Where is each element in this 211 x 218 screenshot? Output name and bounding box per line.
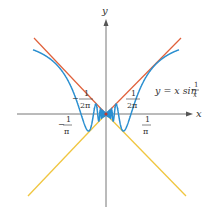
curve-label: y = x sin 1 x xyxy=(154,81,199,99)
y-axis-arrow-icon xyxy=(104,19,109,26)
svg-text:2π: 2π xyxy=(127,101,137,110)
svg-text:2π: 2π xyxy=(80,101,90,110)
svg-text:π: π xyxy=(143,127,148,136)
figure: y x y = x sin 1 x − 1 2π 1 2π − 1 π 1 π xyxy=(0,0,211,218)
upper-bound-lines xyxy=(34,38,181,114)
lower-bound-lines xyxy=(28,114,186,196)
x-axis-label: x xyxy=(196,108,202,119)
tick-label-neg-1-over-2pi: − 1 2π xyxy=(72,89,93,110)
svg-text:−: − xyxy=(72,94,79,103)
svg-text:y = x sin: y = x sin xyxy=(154,85,197,96)
svg-text:1: 1 xyxy=(145,115,150,124)
svg-text:1: 1 xyxy=(194,81,198,89)
x-axis-arrow-icon xyxy=(186,112,193,117)
svg-text:x: x xyxy=(193,91,197,99)
tick-label-pos-1-over-pi: 1 π xyxy=(142,115,151,136)
origin-point xyxy=(104,112,107,115)
svg-text:1: 1 xyxy=(84,89,89,98)
svg-text:1: 1 xyxy=(131,89,136,98)
svg-text:π: π xyxy=(64,127,69,136)
tick-label-neg-1-over-pi: − 1 π xyxy=(58,115,72,136)
y-axis-label: y xyxy=(101,5,108,16)
svg-text:1: 1 xyxy=(66,115,71,124)
